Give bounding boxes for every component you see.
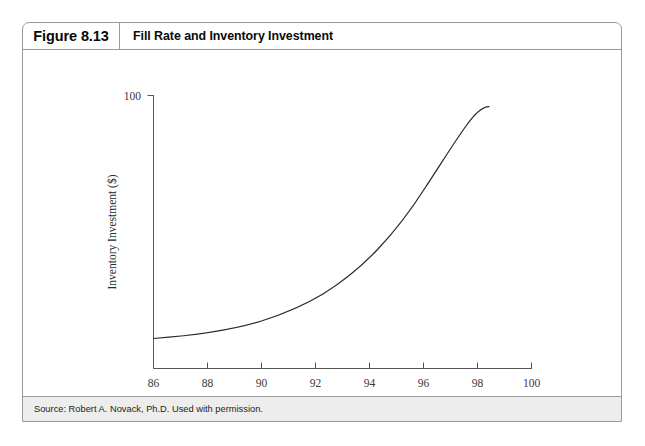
figure-title: Fill Rate and Inventory Investment: [120, 29, 333, 43]
x-tick-label-98: 98: [472, 377, 484, 389]
x-tick-label-96: 96: [418, 377, 430, 389]
y-axis-title: Inventory Investment ($): [106, 174, 119, 289]
x-tick-label-90: 90: [256, 377, 268, 389]
fill-rate-inventory-chart: 86 88 90 92 94 96 98 100 100 Fill Rate (…: [23, 50, 621, 396]
figure-source-bar: Source: Robert A. Novack, Ph.D. Used wit…: [23, 396, 621, 421]
x-tick-label-92: 92: [310, 377, 322, 389]
source-text: Source: Robert A. Novack, Ph.D. Used wit…: [23, 404, 263, 414]
chart-plot-area: 86 88 90 92 94 96 98 100 100 Fill Rate (…: [23, 50, 621, 396]
figure-container: Figure 8.13 Fill Rate and Inventory Inve…: [22, 22, 622, 422]
figure-number-label: Figure 8.13: [23, 23, 120, 49]
figure-header: Figure 8.13 Fill Rate and Inventory Inve…: [23, 23, 621, 50]
inventory-investment-curve: [154, 107, 490, 339]
x-tick-label-94: 94: [364, 377, 376, 389]
x-tick-label-86: 86: [148, 377, 160, 389]
y-tick-label-100: 100: [124, 90, 142, 102]
x-tick-label-88: 88: [202, 377, 214, 389]
x-tick-label-100: 100: [523, 377, 541, 389]
